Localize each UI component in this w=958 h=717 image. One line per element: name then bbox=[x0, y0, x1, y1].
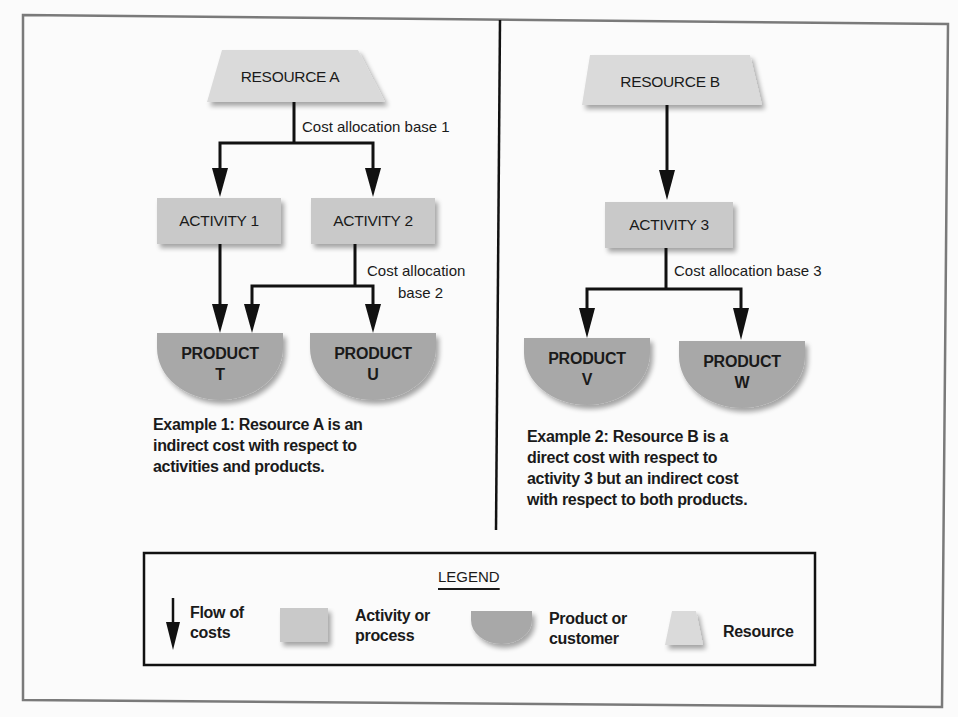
product-v-label-line2: V bbox=[524, 369, 650, 390]
example-1-caption-line: Example 1: Resource A is an bbox=[153, 414, 362, 435]
example-2-caption-line: Example 2: Resource B is a bbox=[527, 426, 747, 447]
down-arrow-icon bbox=[166, 598, 180, 650]
example-1-caption-line: activities and products. bbox=[153, 456, 362, 477]
legend-item-label: customer bbox=[549, 629, 627, 649]
activity-1-label: ACTIVITY 1 bbox=[157, 198, 281, 244]
cost-allocation-diagram: RESOURCE A Cost allocation base 1 ACTIVI… bbox=[0, 0, 958, 717]
activity-3-label: ACTIVITY 3 bbox=[605, 202, 733, 248]
product-t-label-line2: T bbox=[157, 364, 283, 385]
legend-item-flow-of-costs: Flow of costs bbox=[190, 603, 244, 643]
product-u-label-line1: PRODUCT bbox=[310, 343, 436, 364]
legend-item-activity: Activity or process bbox=[355, 606, 430, 646]
legend-title: LEGEND bbox=[438, 568, 500, 585]
product-w-label-line1: PRODUCT bbox=[679, 351, 805, 372]
example-2-caption-line: with respect to both products. bbox=[527, 489, 747, 510]
product-w-label-line2: W bbox=[679, 372, 805, 393]
product-v-label-line1: PRODUCT bbox=[524, 348, 650, 369]
product-t-label: PRODUCT T bbox=[157, 343, 283, 385]
resource-a-label: RESOURCE A bbox=[222, 62, 358, 92]
product-u-label-line2: U bbox=[310, 364, 436, 385]
trapezoid-icon bbox=[665, 611, 703, 645]
legend-item-resource: Resource bbox=[723, 622, 794, 642]
activity-2-label: ACTIVITY 2 bbox=[311, 198, 435, 244]
legend-item-label: process bbox=[355, 626, 430, 646]
legend-item-label: Product or bbox=[549, 609, 627, 629]
resource-b-label: RESOURCE B bbox=[590, 67, 750, 97]
diagram-graphics bbox=[0, 0, 958, 717]
divider-line bbox=[496, 20, 500, 530]
legend-item-label: Flow of bbox=[190, 603, 244, 623]
legend-item-label: costs bbox=[190, 623, 244, 643]
legend-item-product: Product or customer bbox=[549, 609, 627, 649]
product-u-label: PRODUCT U bbox=[310, 343, 436, 385]
cost-allocation-base-3-label: Cost allocation base 3 bbox=[674, 262, 822, 280]
example-1-caption: Example 1: Resource A is an indirect cos… bbox=[153, 414, 362, 477]
rectangle-icon bbox=[280, 608, 328, 642]
legend-item-label: Activity or bbox=[355, 606, 430, 626]
example-2-caption: Example 2: Resource B is a direct cost w… bbox=[527, 426, 747, 510]
example-2-caption-line: activity 3 but an indirect cost bbox=[527, 468, 747, 489]
product-w-label: PRODUCT W bbox=[679, 351, 805, 393]
arrowheads-example-2 bbox=[579, 170, 749, 340]
cost-allocation-base-2-label-line1: Cost allocation bbox=[367, 262, 465, 280]
cost-allocation-base-2-label-line2: base 2 bbox=[398, 284, 443, 302]
product-t-label-line1: PRODUCT bbox=[157, 343, 283, 364]
half-disc-icon bbox=[471, 611, 532, 644]
legend-item-label: Resource bbox=[723, 622, 794, 642]
example-1-caption-line: indirect cost with respect to bbox=[153, 435, 362, 456]
product-v-label: PRODUCT V bbox=[524, 348, 650, 390]
cost-allocation-base-1-label: Cost allocation base 1 bbox=[302, 118, 450, 136]
example-2-caption-line: direct cost with respect to bbox=[527, 447, 747, 468]
